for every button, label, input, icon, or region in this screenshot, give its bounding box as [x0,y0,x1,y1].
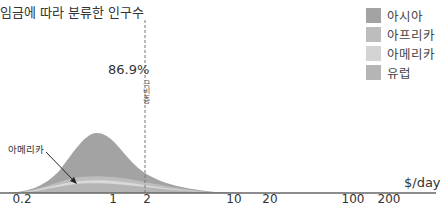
x-tick-100: 100 [342,192,365,206]
x-axis-unit: $/day [404,175,441,190]
x-tick-1: 1 [109,192,117,206]
x-tick-0.2: 0.2 [12,192,31,206]
threshold-percentage: 86.9% [108,62,149,77]
threshold-label: 극빈층 [140,80,151,104]
x-tick-2: 2 [143,192,151,206]
annotation-label: 아메리카 [8,142,44,156]
x-tick-10: 10 [226,192,241,206]
x-tick-20: 20 [262,192,277,206]
x-tick-200: 200 [378,192,401,206]
